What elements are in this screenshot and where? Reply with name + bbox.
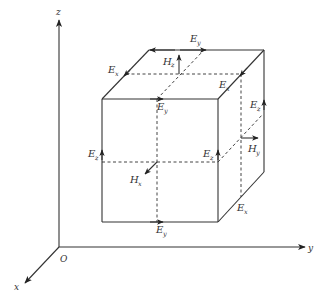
label-ez-front-right: E z [202, 148, 214, 162]
field-labels: E y E x H z E x E y E z H y E z [87, 33, 261, 238]
label-hx: H x [129, 174, 142, 188]
cube-edges [102, 50, 264, 222]
origin-label: O [60, 254, 68, 264]
label-ex-top-left: E x [107, 64, 119, 78]
svg-text:x: x [226, 85, 230, 93]
yee-cell-diagram: z y x O [0, 0, 314, 299]
label-hz: H z [162, 56, 175, 69]
hx-arrow [145, 162, 157, 174]
label-ey-top-back: E y [189, 33, 201, 47]
svg-text:y: y [162, 230, 167, 238]
svg-text:x: x [115, 70, 119, 78]
svg-text:y: y [163, 107, 168, 115]
svg-text:x: x [244, 208, 248, 216]
x-axis [25, 247, 59, 283]
ex-top-right-arrow [240, 68, 247, 76]
label-ey-front-top: E y [156, 101, 168, 115]
svg-text:x: x [138, 180, 142, 188]
svg-text:z: z [94, 154, 99, 162]
ex-top-left-arrow [124, 70, 130, 76]
svg-text:y: y [196, 39, 201, 47]
label-ex-bottom-right: E x [236, 202, 248, 216]
svg-text:y: y [255, 149, 260, 157]
svg-text:z: z [170, 61, 175, 69]
label-ez-front-left: E z [87, 148, 99, 162]
dashed-midlines [102, 50, 263, 222]
x-axis-label: x [14, 282, 19, 292]
svg-text:z: z [256, 105, 261, 113]
label-ex-top-right: E x [218, 79, 230, 93]
label-hy: H y [247, 143, 260, 157]
label-ez-back-right: E z [249, 99, 261, 113]
y-axis-label: y [307, 243, 314, 253]
z-axis-label: z [55, 7, 61, 17]
svg-text:z: z [209, 154, 214, 162]
label-ey-front-bottom: E y [155, 224, 167, 238]
